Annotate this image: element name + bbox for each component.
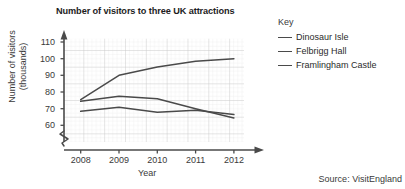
chart-screenshot: .................... Number of visitors … — [0, 0, 405, 189]
y-tick-label-70: 70 — [33, 104, 55, 114]
legend-label-dinosaur-isle: Dinosaur Isle — [296, 32, 349, 42]
y-tick-label-80: 80 — [33, 87, 55, 97]
y-tick-label-100: 100 — [33, 54, 55, 64]
legend-label-felbrigg-hall: Felbrigg Hall — [296, 46, 347, 56]
source-attribution: Source: VisitEngland — [319, 174, 402, 184]
legend-line-swatch-icon — [278, 65, 292, 66]
y-axis-title-line1: Number of visitors — [7, 30, 17, 103]
x-tick-label-2009: 2009 — [104, 155, 134, 165]
legend-item-framlingham-castle: Framlingham Castle — [278, 58, 405, 72]
y-tick-label-110: 110 — [33, 37, 55, 47]
legend-item-dinosaur-isle: Dinosaur Isle — [278, 30, 405, 44]
legend-title: Key — [278, 17, 405, 27]
legend-item-felbrigg-hall: Felbrigg Hall — [278, 44, 405, 58]
legend-label-framlingham-castle: Framlingham Castle — [296, 60, 377, 70]
x-tick-label-2010: 2010 — [142, 155, 172, 165]
y-tick-label-60: 60 — [33, 120, 55, 130]
x-tick-label-2012: 2012 — [219, 155, 249, 165]
y-axis-title-line2: (thousands) — [17, 43, 27, 91]
x-tick-label-2011: 2011 — [181, 155, 211, 165]
legend-line-swatch-icon — [278, 37, 292, 38]
y-tick-label-90: 90 — [33, 70, 55, 80]
x-axis-title: Year — [138, 168, 156, 178]
plot-gridlines — [64, 39, 244, 142]
legend-line-swatch-icon — [278, 51, 292, 52]
x-axis — [64, 147, 264, 154]
y-axis-title: Number of visitors (thousands) — [7, 19, 28, 115]
chart-legend: Key Dinosaur Isle Felbrigg Hall Framling… — [278, 17, 405, 72]
x-tick-label-2008: 2008 — [66, 155, 96, 165]
